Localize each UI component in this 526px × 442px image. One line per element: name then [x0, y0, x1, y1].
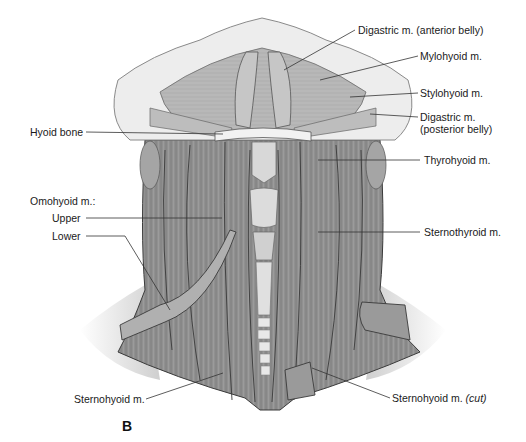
- gland-left: [140, 141, 160, 189]
- label-sternothyroid: Sternothyroid m.: [424, 226, 501, 238]
- label-omohyoid-upper: Upper: [52, 212, 81, 224]
- label-sternohyoid: Sternohyoid m.: [74, 393, 145, 405]
- label-sternohyoid-cut: Sternohyoid m. (cut): [392, 392, 487, 404]
- label-sternohyoid-cut-note: (cut): [466, 392, 487, 404]
- label-hyoid-bone: Hyoid bone: [30, 126, 83, 138]
- label-digastric-anterior-belly: Digastric m. (anterior belly): [358, 24, 483, 36]
- label-omohyoid-heading: Omohyoid m.:: [30, 195, 95, 207]
- label-stylohyoid: Stylohyoid m.: [420, 87, 483, 99]
- gland-right: [366, 141, 386, 189]
- label-omohyoid-lower: Lower: [52, 230, 81, 242]
- label-digastric-posterior-2: (posterior belly): [420, 123, 492, 135]
- panel-letter: B: [122, 418, 132, 434]
- label-sternohyoid-cut-main: Sternohyoid m.: [392, 392, 463, 404]
- label-thyrohyoid: Thyrohyoid m.: [424, 154, 491, 166]
- label-digastric-posterior-1: Digastric m.: [420, 111, 475, 123]
- label-mylohyoid: Mylohyoid m.: [420, 50, 482, 62]
